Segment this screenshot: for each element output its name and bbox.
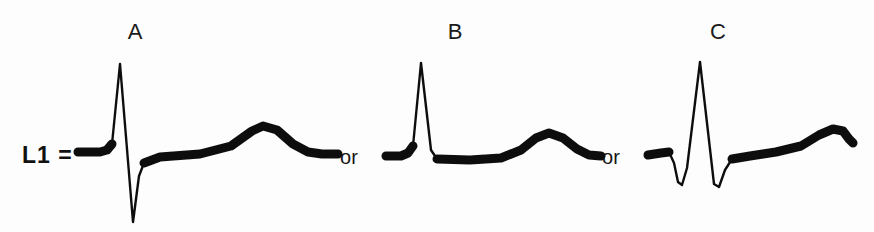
waveform-c-qrs: [669, 62, 732, 187]
waveform-a-qrs: [112, 64, 144, 222]
waveform-b-st-t: [437, 133, 601, 160]
waveform-c: [648, 62, 853, 187]
ecg-traces: [0, 0, 874, 232]
waveform-b-baseline: [386, 146, 413, 156]
waveform-c-st-t: [732, 129, 853, 159]
waveform-a-baseline: [78, 144, 112, 152]
waveform-a: [78, 64, 338, 222]
ecg-lead1-morphology-figure: L1 = A B C or or: [0, 0, 874, 232]
waveform-b: [386, 63, 601, 160]
waveform-c-baseline: [648, 152, 669, 155]
waveform-a-st-t: [144, 126, 338, 163]
